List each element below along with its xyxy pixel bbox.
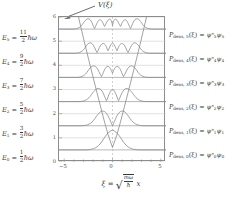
energy-label-n0-fraction: 1 2 — [20, 150, 24, 163]
x-tick-5: 5 — [153, 163, 167, 169]
y-tick-0: 0 — [46, 158, 56, 164]
density-curve-n3 — [59, 66, 166, 77]
energy-label-n0-denominator: 2 — [20, 157, 24, 163]
energy-label-n2-numerator: 5 — [20, 102, 24, 108]
energy-label-n2-index: 2 — [7, 109, 10, 114]
density-label-n1-psi-index: 1 — [222, 130, 225, 135]
energy-label-n5-index: 5 — [7, 37, 10, 42]
x-axis-caption-var: x — [137, 180, 141, 188]
density-label-n0-subscript: dens, 0 — [173, 154, 188, 159]
energy-label-n3-denominator: 2 — [20, 85, 24, 91]
density-label-n0-arg: (ξ) = — [189, 151, 205, 159]
figure-root: V(ξ) — [0, 0, 242, 200]
energy-label-n5-eq: = — [12, 34, 18, 42]
energy-label-n1-index: 1 — [7, 133, 10, 138]
density-curve-n5 — [59, 19, 166, 29]
x-axis-caption-lhs: ξ = — [102, 180, 114, 188]
energy-label-n0-unit: ħω — [24, 154, 34, 162]
energy-label-n0-numerator: 1 — [20, 150, 24, 156]
density-label-n4-subscript: dens, 4 — [173, 58, 188, 63]
density-label-n5-psi-index: 5 — [222, 34, 225, 39]
y-tick-2: 2 — [46, 110, 56, 116]
density-label-n3-subscript: dens, 3 — [173, 82, 188, 87]
energy-label-n1-eq: = — [12, 130, 18, 138]
energy-label-n3-unit: ħω — [24, 82, 34, 90]
y-tick-1: 1 — [46, 134, 56, 140]
density-label-n4-arg: (ξ) = — [189, 55, 205, 63]
density-label-n0-psi-index: 0 — [222, 154, 225, 159]
energy-label-n5-fraction: 11 2 — [20, 30, 27, 43]
y-ticks — [59, 17, 62, 162]
energy-label-n5-numerator: 11 — [20, 30, 27, 36]
density-label-n2-arg: (ξ) = — [189, 103, 205, 111]
energy-label-n2-unit: ħω — [24, 106, 34, 114]
energy-label-n4-unit: ħω — [24, 58, 34, 66]
radical-sign-icon: √ — [116, 183, 123, 189]
y-tick-5: 5 — [46, 37, 56, 43]
energy-label-n4-index: 4 — [7, 61, 10, 66]
y-tick-6: 6 — [46, 13, 56, 19]
energy-label-n0-index: 0 — [7, 157, 10, 162]
x-axis-caption: ξ = √ mω ħ x — [0, 174, 242, 190]
energy-label-n1-fraction: 3 2 — [20, 126, 24, 139]
density-label-n4: Pdens, 4(ξ) = ψ*4ψ4 — [169, 55, 224, 63]
energy-label-n1-denominator: 2 — [20, 133, 24, 139]
density-label-n1-subscript: dens, 1 — [173, 130, 188, 135]
y-tick-3: 3 — [46, 85, 56, 91]
energy-label-n2: E2 = 5 2 ħω — [2, 102, 33, 115]
energy-label-n3-eq: = — [12, 82, 18, 90]
density-label-n3: Pdens, 3(ξ) = ψ*3ψ3 — [169, 79, 224, 87]
x-tick-0: 0 — [104, 163, 118, 169]
energy-label-n4-fraction: 9 2 — [20, 54, 24, 67]
density-label-n2-subscript: dens, 2 — [173, 106, 188, 111]
y-tick-4: 4 — [46, 61, 56, 67]
energy-label-n3-numerator: 7 — [20, 78, 24, 84]
energy-label-n3-index: 3 — [7, 85, 10, 90]
energy-label-n2-denominator: 2 — [20, 109, 24, 115]
energy-label-n2-fraction: 5 2 — [20, 102, 24, 115]
energy-label-n4-eq: = — [12, 58, 18, 66]
energy-label-n4-numerator: 9 — [20, 54, 24, 60]
energy-label-n5-denominator: 2 — [20, 37, 27, 43]
density-label-n5-arg: (ξ) = — [189, 31, 205, 39]
radicand: mω ħ — [123, 174, 135, 188]
x-minor-ticks — [64, 159, 161, 163]
plot-area — [58, 16, 165, 161]
energy-label-n1: E1 = 3 2 ħω — [2, 126, 33, 139]
x-tick-minus5: −5 — [56, 163, 70, 169]
energy-label-n1-unit: ħω — [24, 130, 34, 138]
density-label-n3-psi-index: 3 — [222, 82, 225, 87]
plot-svg — [59, 17, 166, 162]
energy-label-n5: E5 = 11 2 ħω — [2, 30, 37, 43]
density-label-n0: Pdens, 0(ξ) = ψ*0ψ0 — [169, 151, 224, 159]
x-axis-caption-denominator: ħ — [124, 182, 134, 188]
density-label-n5: Pdens, 5(ξ) = ψ*5ψ5 — [169, 31, 224, 39]
density-label-n4-psi-index: 4 — [222, 58, 225, 63]
energy-label-n4: E4 = 9 2 ħω — [2, 54, 33, 67]
density-label-n2-psi-index: 2 — [222, 106, 225, 111]
x-axis-caption-numerator: mω — [124, 175, 134, 181]
energy-label-n4-denominator: 2 — [20, 61, 24, 67]
energy-label-n0: E0 = 1 2 ħω — [2, 150, 33, 163]
energy-label-n5-unit: ħω — [27, 34, 37, 42]
density-label-n2: Pdens, 2(ξ) = ψ*2ψ2 — [169, 103, 224, 111]
density-label-n5-subscript: dens, 5 — [173, 34, 188, 39]
density-label-n1: Pdens, 1(ξ) = ψ*1ψ1 — [169, 127, 224, 135]
energy-label-n3-fraction: 7 2 — [20, 78, 24, 91]
density-curve-n4 — [59, 43, 166, 53]
energy-label-n2-eq: = — [12, 106, 18, 114]
energy-label-n0-eq: = — [12, 154, 18, 162]
potential-label: V(ξ) — [98, 1, 112, 9]
energy-label-n3: E3 = 7 2 ħω — [2, 78, 33, 91]
density-label-n3-arg: (ξ) = — [189, 79, 205, 87]
x-axis-caption-sqrt: √ mω ħ — [116, 174, 135, 190]
density-label-n1-arg: (ξ) = — [189, 127, 205, 135]
energy-label-n1-numerator: 3 — [20, 126, 24, 132]
